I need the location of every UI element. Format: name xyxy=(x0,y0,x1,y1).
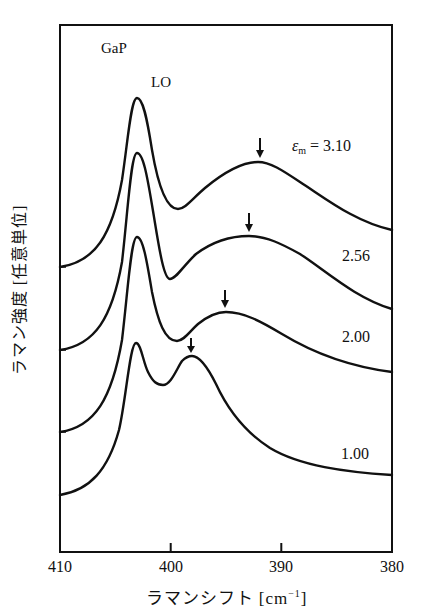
chart-plot-area xyxy=(0,0,423,615)
material-label: GaP xyxy=(101,40,127,57)
series-label-2.56: 2.56 xyxy=(342,247,370,265)
x-axis-title-bracket: ] xyxy=(301,589,308,608)
lo-peak-label: LO xyxy=(151,74,171,91)
series-label-1.00: 1.00 xyxy=(341,445,369,463)
x-axis-title-exponent: −1 xyxy=(288,588,301,599)
plot-frame xyxy=(60,25,392,552)
series-curve-1.00 xyxy=(60,343,392,495)
series-label-3.10: εm = 3.10 xyxy=(292,137,351,156)
arrow-icon xyxy=(256,138,264,158)
epsilon-value: = 3.10 xyxy=(306,137,351,154)
series-curve-3.10 xyxy=(60,98,392,267)
x-axis-title-text: ラマンシフト [cm xyxy=(146,589,289,608)
x-tick-label-390: 390 xyxy=(269,558,293,576)
epsilon-subscript: m xyxy=(298,145,306,156)
x-tick-label-380: 380 xyxy=(380,558,404,576)
arrow-icon xyxy=(187,338,195,353)
x-tick-label-410: 410 xyxy=(48,558,72,576)
arrow-icon xyxy=(245,213,253,232)
x-axis-title: ラマンシフト [cm−1] xyxy=(0,584,423,609)
arrow-icon xyxy=(221,290,229,308)
series-label-2.00: 2.00 xyxy=(342,328,370,346)
x-tick-label-400: 400 xyxy=(159,558,183,576)
y-axis-title: ラマン強度 [任意単位] xyxy=(6,205,30,376)
